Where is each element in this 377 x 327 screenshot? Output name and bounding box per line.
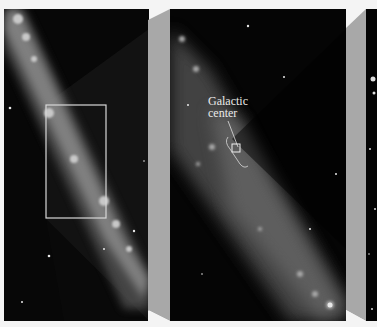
wide-field-panel: [4, 9, 149, 321]
milky-way-wide-image: [4, 9, 149, 321]
connector-slab-2: [346, 0, 366, 327]
galactic-center-label: Galactic center: [208, 95, 248, 119]
zoomed-field-panel: Galactic center: [170, 9, 346, 321]
label-line-2: center: [208, 107, 248, 119]
galactic-center-image: [170, 9, 346, 321]
star-field-image: [366, 9, 377, 321]
narrow-field-panel: [366, 9, 377, 321]
connector-slab-1: [148, 0, 170, 327]
